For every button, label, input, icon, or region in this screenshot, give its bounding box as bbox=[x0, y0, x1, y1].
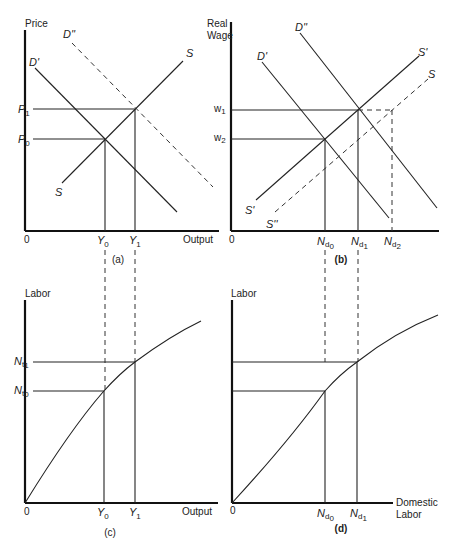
panel-d-tick-nd1: Nd1 bbox=[350, 507, 367, 523]
panel-b-tick-nd0: Nd0 bbox=[317, 235, 334, 251]
panel-c-caption: (c) bbox=[104, 527, 116, 538]
panel-a-supply-s bbox=[62, 61, 183, 183]
panel-b-ylabel-line2: Wage bbox=[207, 30, 233, 41]
panel-a-label-s-top: S bbox=[186, 47, 194, 59]
panel-b-tick-nd2: Nd2 bbox=[384, 235, 401, 251]
panel-b-label-s-prime-bottom: S' bbox=[245, 204, 255, 216]
panel-a: Price Output 0 (a) D' D'' S S P1 P0 Y0 Y… bbox=[18, 18, 219, 265]
panel-a-ylabel: Price bbox=[25, 18, 48, 29]
panel-a-caption: (a) bbox=[112, 254, 124, 265]
panel-a-demand-d-double-prime bbox=[72, 43, 213, 187]
panel-c-tick-y0: Y0 bbox=[97, 506, 109, 521]
panel-a-origin: 0 bbox=[24, 234, 30, 245]
panel-b-supply-s-prime bbox=[256, 56, 419, 200]
panel-a-tick-y0: Y0 bbox=[97, 234, 109, 249]
panel-b-label-d-double-prime: D'' bbox=[295, 21, 308, 33]
panel-d-labor-curve bbox=[232, 315, 438, 503]
panel-b-caption: (b) bbox=[335, 254, 348, 265]
panel-b-ylabel-line1: Real bbox=[207, 18, 228, 29]
panel-a-label-d-double-prime: D'' bbox=[63, 28, 76, 40]
panel-b-tick-w1: w1 bbox=[213, 103, 226, 116]
panel-a-label-d-prime: D' bbox=[29, 56, 40, 68]
panel-b: Real Wage 0 (b) D' D'' S' S' S S'' w1 w2… bbox=[207, 18, 439, 265]
panel-c-tick-y1: Y1 bbox=[129, 506, 141, 521]
panel-b-label-s-top: S bbox=[428, 68, 436, 80]
panel-c-production-curve bbox=[25, 321, 201, 503]
panel-c-tick-nt0: Nt0 bbox=[14, 384, 29, 399]
panel-d-ylabel: Labor bbox=[231, 288, 257, 299]
panel-d-caption: (d) bbox=[335, 523, 348, 534]
panel-b-demand-d-double-prime bbox=[300, 33, 437, 208]
panel-c-tick-nt1: Nt1 bbox=[14, 355, 29, 370]
panel-a-tick-y1: Y1 bbox=[129, 234, 141, 249]
panel-b-label-s-double-prime: S'' bbox=[266, 218, 278, 230]
panel-d: Labor Domestic Labor 0 (d) Nd0 Nd1 bbox=[230, 288, 438, 534]
panel-c-xlabel: Output bbox=[182, 506, 212, 517]
panel-d-xlabel-line1: Domestic bbox=[396, 497, 438, 508]
panel-b-label-s-prime-top: S' bbox=[418, 46, 428, 58]
panel-b-tick-w2: w2 bbox=[213, 132, 226, 145]
panel-d-origin: 0 bbox=[230, 505, 236, 516]
panel-d-xlabel-line2: Labor bbox=[396, 509, 422, 520]
panel-c-origin: 0 bbox=[24, 506, 30, 517]
panel-b-origin: 0 bbox=[229, 234, 235, 245]
panel-a-xlabel: Output bbox=[183, 234, 213, 245]
panel-d-tick-nd0: Nd0 bbox=[317, 507, 334, 523]
panel-b-label-d-prime: D' bbox=[257, 50, 268, 62]
panel-c-ylabel: Labor bbox=[25, 288, 51, 299]
figure-four-panel-diagram: Price Output 0 (a) D' D'' S S P1 P0 Y0 Y… bbox=[0, 0, 455, 555]
panel-b-tick-nd1: Nd1 bbox=[351, 235, 368, 251]
panel-a-label-s-bottom: S bbox=[55, 186, 63, 198]
panel-c: Labor Output 0 (c) Nt1 Nt0 Y0 Y1 bbox=[14, 288, 218, 538]
